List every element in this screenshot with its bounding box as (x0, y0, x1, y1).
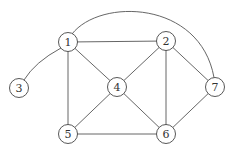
node-label: 7 (212, 81, 219, 94)
node-6: 6 (157, 125, 176, 144)
node-label: 1 (65, 36, 72, 49)
edges-layer (24, 11, 215, 134)
nodes-layer: 1234567 (10, 32, 225, 144)
node-5: 5 (59, 125, 78, 144)
node-2: 2 (157, 32, 176, 51)
node-3: 3 (10, 79, 29, 98)
node-label: 4 (114, 81, 121, 94)
edge-6-7 (166, 87, 215, 134)
node-label: 5 (65, 128, 72, 141)
node-label: 3 (16, 82, 23, 95)
node-7: 7 (206, 78, 225, 97)
edge-1-4 (68, 42, 117, 87)
edge-4-6 (117, 87, 166, 134)
edge-2-4 (117, 41, 166, 87)
node-4: 4 (108, 78, 127, 97)
edge-1-7 (72, 11, 214, 77)
graph-diagram: 1234567 (0, 0, 235, 153)
edge-1-2 (68, 41, 166, 42)
node-label: 2 (163, 35, 170, 48)
node-1: 1 (59, 33, 78, 52)
edge-2-7 (166, 41, 215, 87)
edge-4-5 (68, 87, 117, 134)
node-label: 6 (163, 128, 170, 141)
edge-1-3 (24, 48, 61, 80)
